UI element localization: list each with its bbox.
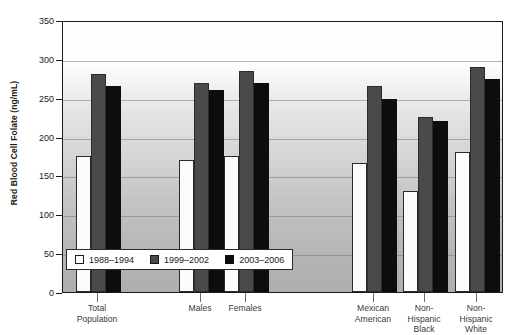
y-axis-tick-label: 150 — [18, 171, 54, 181]
bar — [485, 79, 500, 292]
x-axis-tick-label: Total Population — [65, 303, 129, 324]
bar — [224, 156, 239, 292]
y-axis-tick-label: 0 — [18, 288, 54, 298]
x-axis-tick-mark — [245, 293, 246, 302]
x-axis-tick-mark — [424, 293, 425, 302]
x-axis-tick-label: Non- Hispanic White — [444, 303, 508, 335]
y-axis-tick-label: 50 — [18, 249, 54, 259]
bar — [470, 67, 485, 292]
gridline — [63, 61, 502, 62]
bar — [367, 86, 382, 292]
y-axis-tick-label: 100 — [18, 210, 54, 220]
bar — [418, 117, 433, 292]
gridline — [63, 100, 502, 101]
x-axis-tick-mark — [476, 293, 477, 302]
chart-legend: 1988–19941999–20022003–2006 — [66, 249, 293, 270]
y-axis-tick-mark — [56, 293, 62, 294]
y-axis-title: Red Blood Cell Folate (ng/mL) — [9, 53, 19, 233]
x-axis-tick-mark — [97, 293, 98, 302]
x-axis-tick-label: Females — [213, 303, 277, 314]
white-square-icon — [75, 255, 84, 264]
y-axis-tick-label: 350 — [18, 16, 54, 26]
y-axis-tick-label: 300 — [18, 55, 54, 65]
legend-item: 2003–2006 — [225, 255, 284, 265]
bar — [76, 156, 91, 292]
legend-item-label: 1988–1994 — [89, 255, 134, 265]
gray-square-icon — [150, 255, 159, 264]
bar — [455, 152, 470, 292]
bar — [382, 99, 397, 292]
bar — [433, 121, 448, 292]
black-square-icon — [225, 255, 234, 264]
bar — [403, 191, 418, 292]
legend-item: 1988–1994 — [75, 255, 134, 265]
legend-item-label: 2003–2006 — [239, 255, 284, 265]
x-axis-tick-mark — [200, 293, 201, 302]
y-axis-tick-label: 250 — [18, 94, 54, 104]
x-axis-tick-mark — [373, 293, 374, 302]
y-axis-tick-label: 200 — [18, 133, 54, 143]
bar — [179, 160, 194, 292]
legend-item-label: 1999–2002 — [164, 255, 209, 265]
legend-item: 1999–2002 — [150, 255, 209, 265]
bar — [352, 163, 367, 292]
